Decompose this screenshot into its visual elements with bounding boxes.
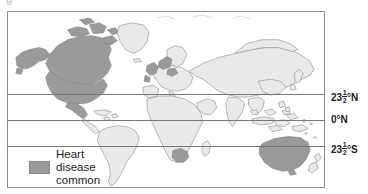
region-new-zealand bbox=[308, 153, 321, 173]
latitude-label-tropic-of-cancer: 2312°N bbox=[331, 89, 358, 104]
legend-label-line-3: common bbox=[56, 174, 100, 187]
legend-label: Heart disease common bbox=[56, 148, 100, 187]
map-legend: Heart disease common bbox=[29, 148, 100, 187]
latitude-whole-number: 23 bbox=[331, 144, 342, 155]
latitude-label-tropic-of-capricorn: 2312°S bbox=[331, 141, 358, 156]
latitude-label-equator: 0°N bbox=[331, 115, 348, 125]
legend-label-line-1: Heart bbox=[56, 148, 100, 161]
latitude-line-tropic-of-cancer bbox=[7, 94, 325, 95]
region-south-america bbox=[97, 126, 139, 186]
latitude-line-equator bbox=[7, 120, 325, 121]
region-greenland bbox=[117, 23, 149, 54]
region-asia bbox=[189, 40, 314, 132]
region-australia bbox=[259, 137, 310, 176]
latitude-equator-text: 0°N bbox=[331, 114, 348, 125]
legend-swatch-heart-disease-common bbox=[29, 161, 50, 174]
figure-root: g .land { fill:#e9e9e9; stroke:#9a9a9a; … bbox=[0, 0, 368, 194]
region-north-america bbox=[16, 18, 119, 119]
clipped-caption-remnant: g bbox=[6, 0, 13, 5]
map-background-texture bbox=[157, 15, 250, 19]
latitude-whole-number: 23 bbox=[331, 92, 342, 103]
latitude-suffix: °S bbox=[347, 144, 358, 155]
latitude-line-tropic-of-capricorn bbox=[7, 146, 325, 147]
region-iceland bbox=[133, 58, 141, 62]
legend-label-line-2: disease bbox=[56, 161, 100, 174]
latitude-suffix: °N bbox=[347, 92, 358, 103]
